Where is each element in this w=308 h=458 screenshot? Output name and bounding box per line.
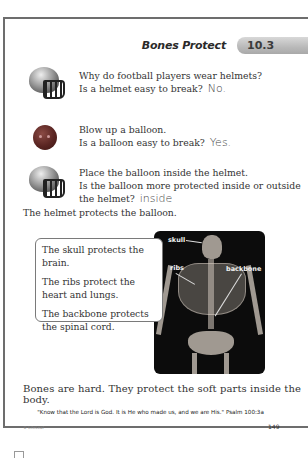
summary-text: Bones are hard. They protect the soft pa… (23, 383, 308, 405)
question-line: the helmet? (79, 193, 135, 204)
helmet-icon (28, 66, 62, 98)
question-line: Is the balloon more protected inside or … (79, 179, 301, 192)
question-line: Blow up a balloon. (79, 123, 231, 136)
lesson-title: Bones Protect (142, 39, 226, 52)
scripture-verse: "Know that the Lord is God. It is He who… (5, 409, 308, 415)
conclusion-statement: The helmet protects the balloon. (23, 207, 177, 218)
handwritten-answer: inside (140, 192, 173, 205)
question-line: Is a balloon easy to break? (79, 137, 205, 148)
label-ribs: ribs (170, 264, 184, 272)
bone-facts-callout: The skull protects the brain. The ribs p… (35, 238, 163, 322)
balloon-icon (33, 125, 57, 150)
page-corner-icon (14, 451, 24, 458)
label-skull: skull (168, 236, 185, 244)
fact-ribs: The ribs protect the heart and lungs. (42, 276, 156, 301)
handwritten-answer: Yes. (210, 136, 231, 149)
question-line: Why do football players wear helmets? (79, 69, 262, 82)
worksheet-page: Bones Protect 10.3 Why do football playe… (3, 17, 308, 428)
fact-skull: The skull protects the brain. (42, 244, 156, 269)
lesson-number: 10.3 (247, 39, 274, 52)
helmet-icon (28, 165, 62, 197)
label-backbone: backbone (226, 265, 261, 273)
question-line: Is a helmet easy to break? (79, 83, 203, 94)
lesson-header: Bones Protect 10.3 (5, 37, 308, 55)
handwritten-answer: No. (208, 82, 226, 95)
skeleton-image: skull ribs backbone (154, 231, 265, 374)
page-number: 149 (268, 423, 279, 430)
publisher-logo: © LifeLeaf (23, 425, 44, 430)
fact-backbone: The backbone protects the spinal cord. (42, 308, 156, 333)
question-line: Place the balloon inside the helmet. (79, 166, 301, 179)
lesson-number-tab: 10.3 (237, 37, 308, 54)
